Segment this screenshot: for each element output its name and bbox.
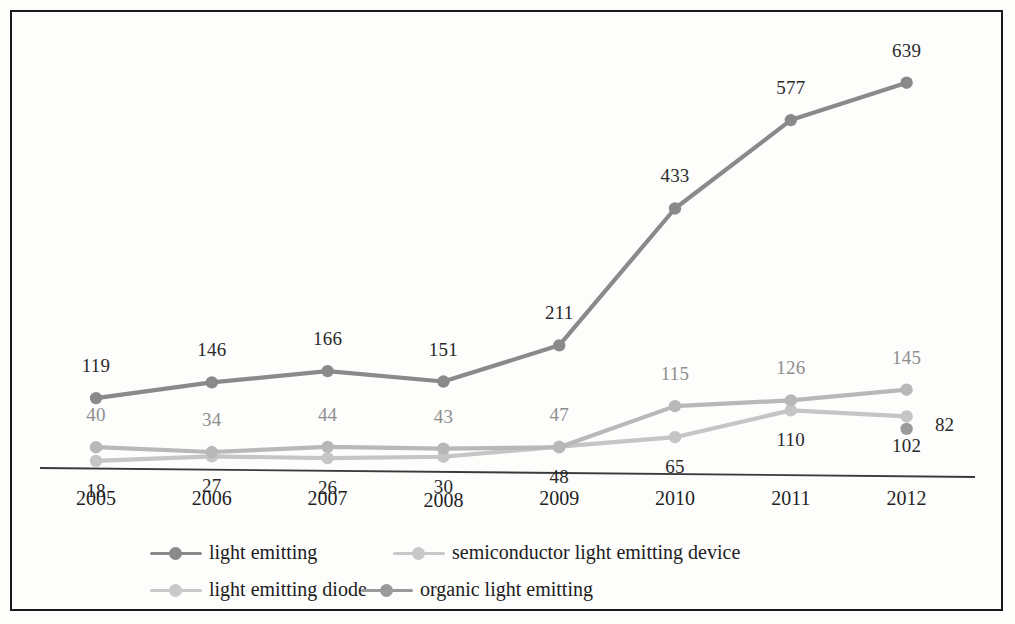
x-axis-label-2010: 2010 [655, 487, 695, 510]
data-label-light-emitting-2012: 639 [892, 40, 921, 62]
legend-dot-0 [169, 547, 182, 560]
legend-marker-icon [361, 582, 413, 598]
data-label-light-emitting-diode-2010: 65 [665, 456, 684, 478]
x-axis-label-2011: 2011 [771, 487, 810, 510]
legend-dot-1 [412, 547, 425, 560]
chart-legend: light emitting semiconductor light emitt… [150, 534, 910, 608]
x-axis-label-2009: 2009 [539, 487, 579, 510]
data-label-light-emitting-2005: 119 [82, 355, 110, 377]
x-axis-label-2012: 2012 [887, 487, 927, 510]
data-label-organic-light-emitting-2012: 82 [935, 414, 954, 436]
legend-row-1: light emitting semiconductor light emitt… [150, 534, 910, 571]
data-label-light-emitting-2011: 577 [776, 77, 805, 99]
data-label-light-emitting-diode-2012: 102 [892, 435, 921, 457]
data-label-light-emitting-2009: 211 [545, 302, 573, 324]
x-axis-label-2006: 2006 [192, 487, 232, 510]
data-label-light-emitting-diode-2011: 110 [777, 429, 805, 451]
x-axis-label-2008: 2008 [423, 489, 463, 512]
legend-label-light-emitting: light emitting [209, 541, 317, 564]
legend-row-2: light emitting diode organic light emitt… [150, 571, 910, 608]
legend-item-organic-light-emitting[interactable]: organic light emitting [361, 578, 593, 601]
data-label-semiconductor-light-emitting-device-2009: 47 [549, 404, 568, 426]
data-label-semiconductor-light-emitting-device-2012: 145 [892, 347, 921, 369]
data-label-light-emitting-diode-2009: 48 [549, 466, 568, 488]
legend-dot-2 [169, 584, 182, 597]
data-label-semiconductor-light-emitting-device-2010: 115 [661, 363, 689, 385]
legend-marker-icon [150, 545, 202, 561]
legend-marker-icon [393, 545, 445, 561]
chart-frame [10, 10, 1003, 611]
data-label-light-emitting-2010: 433 [660, 165, 689, 187]
x-axis-label-2007: 2007 [308, 487, 348, 510]
legend-label-organic-light-emitting: organic light emitting [420, 578, 593, 601]
data-label-semiconductor-light-emitting-device-2005: 40 [86, 404, 105, 426]
legend-marker-icon [150, 582, 202, 598]
legend-item-light-emitting-diode[interactable]: light emitting diode [150, 578, 361, 601]
legend-item-light-emitting[interactable]: light emitting [150, 541, 393, 564]
x-axis-label-2005: 2005 [76, 487, 116, 510]
legend-item-semiconductor-light-emitting-device[interactable]: semiconductor light emitting device [393, 541, 740, 564]
data-label-light-emitting-2006: 146 [197, 339, 226, 361]
data-label-semiconductor-light-emitting-device-2006: 34 [202, 409, 221, 431]
legend-label-semiconductor-light-emitting-device: semiconductor light emitting device [452, 541, 740, 564]
data-label-semiconductor-light-emitting-device-2007: 44 [318, 404, 337, 426]
data-label-semiconductor-light-emitting-device-2011: 126 [776, 357, 805, 379]
legend-label-light-emitting-diode: light emitting diode [209, 578, 367, 601]
data-label-light-emitting-2007: 166 [313, 328, 342, 350]
data-label-light-emitting-2008: 151 [429, 339, 458, 361]
legend-dot-3 [380, 584, 393, 597]
data-label-semiconductor-light-emitting-device-2008: 43 [434, 406, 453, 428]
